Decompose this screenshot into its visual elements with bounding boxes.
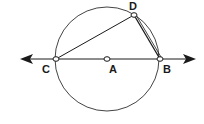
label-a: A (109, 63, 117, 75)
point-a (104, 57, 110, 62)
label-c: C (42, 63, 50, 75)
segment-cd (56, 15, 134, 59)
point-c (53, 57, 59, 62)
label-d: D (129, 0, 137, 12)
geometry-diagram: C A B D (0, 0, 204, 124)
point-b (157, 57, 163, 62)
point-d (131, 13, 137, 18)
segment-db-inner (136, 15, 161, 57)
label-b: B (163, 63, 171, 75)
segment-db (134, 15, 160, 59)
